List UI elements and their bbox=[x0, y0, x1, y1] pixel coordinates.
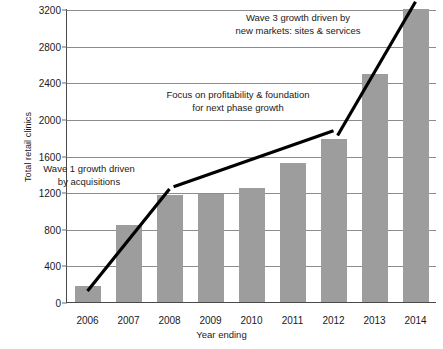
x-tick-label-2013: 2013 bbox=[363, 315, 385, 326]
y-tick-label-2000: 2000 bbox=[39, 114, 61, 125]
y-tick-mark-1200 bbox=[62, 193, 67, 194]
y-tick-label-2800: 2800 bbox=[39, 41, 61, 52]
y-tick-mark-3200 bbox=[62, 10, 67, 11]
x-tick-label-2014: 2014 bbox=[404, 315, 426, 326]
y-tick-mark-2800 bbox=[62, 46, 67, 47]
y-axis-title: Total retail clinics bbox=[23, 67, 33, 227]
x-axis-title: Year ending bbox=[0, 329, 443, 340]
y-tick-mark-0 bbox=[62, 303, 67, 304]
annotation-focus-profitability: Focus on profitability & foundation for … bbox=[132, 89, 344, 114]
x-tick-label-2009: 2009 bbox=[199, 315, 221, 326]
gridline-3200 bbox=[67, 10, 436, 11]
gridline-2800 bbox=[67, 47, 436, 48]
y-tick-mark-400 bbox=[62, 266, 67, 267]
y-tick-mark-800 bbox=[62, 229, 67, 230]
y-tick-label-1200: 1200 bbox=[39, 188, 61, 199]
y-tick-label-2400: 2400 bbox=[39, 78, 61, 89]
annotation-wave-3: Wave 3 growth driven by new markets: sit… bbox=[200, 12, 396, 37]
bar-2013 bbox=[362, 74, 388, 302]
x-tick-label-2007: 2007 bbox=[117, 315, 139, 326]
bar-2010 bbox=[239, 188, 265, 302]
y-tick-mark-1600 bbox=[62, 156, 67, 157]
x-tick-label-2010: 2010 bbox=[240, 315, 262, 326]
bar-2014 bbox=[403, 9, 429, 302]
y-tick-mark-2000 bbox=[62, 119, 67, 120]
bar-2011 bbox=[280, 163, 306, 302]
x-tick-label-2011: 2011 bbox=[282, 315, 304, 326]
y-tick-label-800: 800 bbox=[44, 224, 61, 235]
y-tick-label-1600: 1600 bbox=[39, 151, 61, 162]
x-tick-label-2012: 2012 bbox=[322, 315, 344, 326]
bar-2007 bbox=[116, 225, 142, 302]
y-tick-label-0: 0 bbox=[55, 298, 61, 309]
bar-2008 bbox=[157, 195, 183, 302]
y-tick-label-400: 400 bbox=[44, 261, 61, 272]
annotation-wave-1: Wave 1 growth driven by acquisitions bbox=[9, 163, 169, 188]
y-tick-label-3200: 3200 bbox=[39, 5, 61, 16]
plot-area: 0400800120016002000240028003200200620072… bbox=[67, 10, 436, 303]
bar-2012 bbox=[321, 139, 347, 302]
bar-2009 bbox=[198, 194, 224, 303]
x-tick-label-2008: 2008 bbox=[158, 315, 180, 326]
y-tick-mark-2400 bbox=[62, 83, 67, 84]
retail-clinics-bar-chart: Total retail clinics 0400800120016002000… bbox=[0, 0, 443, 349]
x-tick-label-2006: 2006 bbox=[76, 315, 98, 326]
bar-2006 bbox=[75, 286, 101, 302]
